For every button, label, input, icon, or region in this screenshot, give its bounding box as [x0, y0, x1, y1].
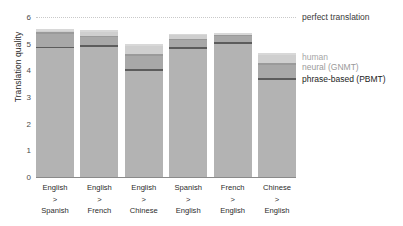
- bar-rule-neural-gnmt: [125, 54, 163, 56]
- bar-segment-phrase-based-pbmt: [36, 47, 74, 177]
- bar-rule-neural-gnmt: [169, 39, 207, 41]
- bar-rule-phrase-based-pbmt: [125, 69, 163, 71]
- plot-area: 0123456: [36, 17, 296, 177]
- x-tick-label-line: >: [250, 194, 304, 206]
- perfect-translation-line: [36, 17, 296, 18]
- bar-rule-phrase-based-pbmt: [214, 42, 252, 44]
- y-tick-label-6: 6: [27, 13, 31, 22]
- x-tick-label-line: Chinese: [250, 182, 304, 194]
- bar-rule-human: [125, 44, 163, 46]
- legend-label-neural-gnmt: neural (GNMT): [302, 62, 359, 72]
- bar-rule-phrase-based-pbmt: [169, 47, 207, 49]
- bar-english-to-chinese: [125, 44, 163, 177]
- translation-quality-chart: Translation quality 0123456 English>Span…: [0, 0, 403, 226]
- y-tick-label-4: 4: [27, 66, 31, 75]
- bar-french-to-english: [214, 33, 252, 177]
- y-tick-label-0: 0: [27, 173, 31, 182]
- legend-label-phrase-based-pbmt: phrase-based (PBMT): [302, 74, 386, 84]
- y-tick-label-1: 1: [27, 146, 31, 155]
- bar-rule-phrase-based-pbmt: [80, 45, 118, 47]
- y-tick-label-3: 3: [27, 93, 31, 102]
- bar-rule-human: [169, 34, 207, 36]
- bar-segment-neural-gnmt: [125, 54, 163, 69]
- legend-label-perfect-translation: perfect translation: [302, 12, 370, 22]
- bar-segment-phrase-based-pbmt: [214, 42, 252, 177]
- bar-rule-human: [36, 29, 74, 31]
- bar-spanish-to-english: [169, 34, 207, 177]
- bar-rule-human: [258, 53, 296, 55]
- bar-segment-phrase-based-pbmt: [169, 47, 207, 177]
- bar-rule-phrase-based-pbmt: [258, 78, 296, 80]
- bar-segment-neural-gnmt: [36, 32, 74, 46]
- bar-rule-neural-gnmt: [36, 32, 74, 34]
- x-tick-label-line: English: [250, 205, 304, 217]
- legend-label-human: human: [302, 52, 328, 62]
- bar-segment-neural-gnmt: [258, 63, 296, 78]
- bar-english-to-french: [80, 30, 118, 177]
- x-axis-line: [36, 177, 296, 178]
- bar-english-to-spanish: [36, 29, 74, 177]
- y-tick-label-5: 5: [27, 39, 31, 48]
- bar-chinese-to-english: [258, 53, 296, 177]
- bar-rule-neural-gnmt: [258, 63, 296, 65]
- y-tick-label-2: 2: [27, 119, 31, 128]
- x-tick-label-chinese-to-english: Chinese>English: [250, 182, 304, 217]
- bar-segment-phrase-based-pbmt: [258, 78, 296, 177]
- bar-rule-human: [80, 30, 118, 32]
- bar-rule-neural-gnmt: [214, 35, 252, 37]
- bar-rule-neural-gnmt: [80, 36, 118, 38]
- bar-rule-phrase-based-pbmt: [36, 47, 74, 49]
- bar-segment-phrase-based-pbmt: [125, 69, 163, 177]
- bar-segment-phrase-based-pbmt: [80, 45, 118, 177]
- y-axis-title: Translation quality: [13, 0, 23, 137]
